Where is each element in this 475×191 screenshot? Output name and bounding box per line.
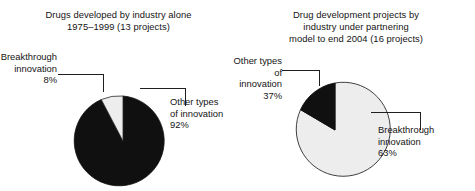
- chart-panel-industry-alone: Drugs developed by industry alone 1975–1…: [0, 0, 237, 191]
- chart-title-industry-alone: Drugs developed by industry alone 1975–1…: [0, 9, 237, 33]
- callout-other-types-right: Other types of innovation 37%: [229, 55, 282, 101]
- pie-chart-partnering-model: [288, 83, 392, 187]
- figure-two-pie-charts: Drugs developed by industry alone 1975–1…: [0, 0, 475, 191]
- pie-chart-industry-alone: [78, 96, 178, 191]
- callout-breakthrough-left: Breakthrough innovation 8%: [0, 51, 57, 86]
- callout-breakthrough-right: Breakthrough innovation 63%: [378, 124, 473, 159]
- chart-title-partnering-model: Drug development projects by industry un…: [237, 9, 475, 46]
- chart-panel-partnering-model: Drug development projects by industry un…: [237, 0, 475, 191]
